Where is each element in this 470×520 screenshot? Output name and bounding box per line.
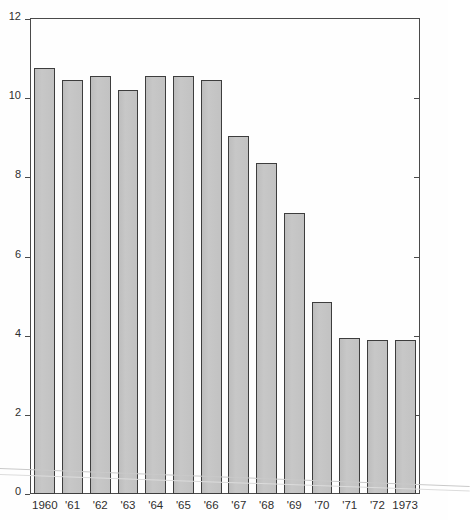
y-tick-mark bbox=[25, 336, 30, 337]
y-axis-tick: 8 bbox=[0, 177, 30, 178]
y-tick-label: 12 bbox=[9, 11, 21, 22]
y-axis-tick: 4 bbox=[0, 336, 30, 337]
y-tick-mark bbox=[25, 257, 30, 258]
y-tick-label: 8 bbox=[15, 169, 21, 180]
y-tick-label: 2 bbox=[15, 407, 21, 418]
bar-72 bbox=[367, 340, 388, 494]
x-axis-labels: 1960'61'62'63'64'65'66'67'68'69'70'71'72… bbox=[31, 498, 419, 518]
bar-62 bbox=[90, 76, 111, 494]
y-tick-label: 4 bbox=[15, 328, 21, 339]
bar-67 bbox=[228, 136, 249, 494]
y-tick-label: 6 bbox=[15, 249, 21, 260]
bar-69 bbox=[284, 213, 305, 494]
x-tick-label: 1973 bbox=[382, 498, 429, 512]
bar-70 bbox=[312, 302, 333, 494]
y-tick-label: 0 bbox=[15, 486, 21, 497]
bar-63 bbox=[118, 90, 139, 494]
y-tick-mark bbox=[25, 415, 30, 416]
bar-1973 bbox=[395, 340, 416, 494]
y-tick-mark bbox=[25, 98, 30, 99]
y-tick-label: 10 bbox=[9, 90, 21, 101]
y-tick-mark bbox=[25, 19, 30, 20]
bar-68 bbox=[256, 163, 277, 494]
bar-66 bbox=[201, 80, 222, 494]
bar-64 bbox=[145, 76, 166, 494]
bar-65 bbox=[173, 76, 194, 494]
bar-61 bbox=[62, 80, 83, 494]
y-axis-tick: 12 bbox=[0, 19, 30, 20]
y-axis-tick: 6 bbox=[0, 257, 30, 258]
y-axis-tick: 10 bbox=[0, 98, 30, 99]
bar-71 bbox=[339, 338, 360, 494]
y-axis-tick: 2 bbox=[0, 415, 30, 416]
y-tick-mark bbox=[25, 177, 30, 178]
bars-group bbox=[31, 19, 419, 494]
bar-1960 bbox=[34, 68, 55, 494]
y-axis-tick: 0 bbox=[0, 494, 30, 495]
y-tick-mark bbox=[25, 494, 30, 495]
